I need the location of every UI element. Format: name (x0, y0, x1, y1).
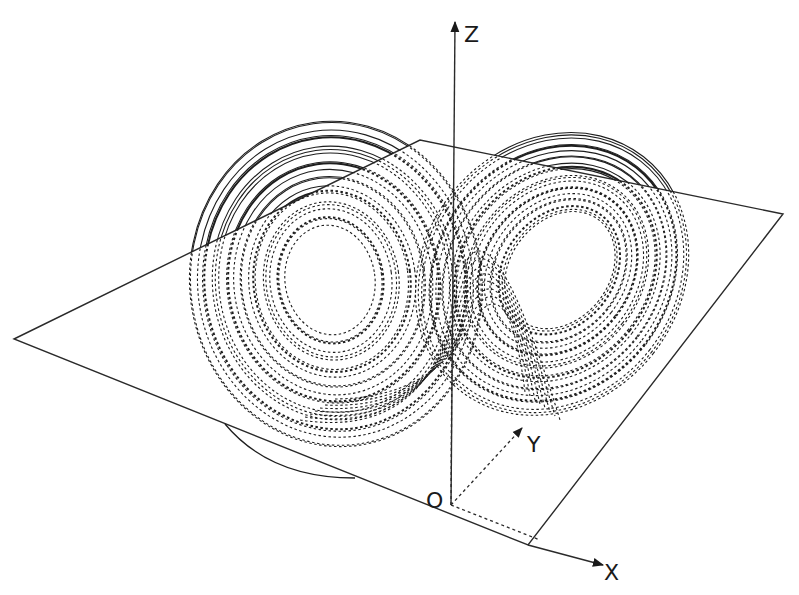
left-wing-orbit (227, 164, 439, 399)
x-axis (528, 545, 603, 565)
left-wing-orbit (242, 180, 423, 382)
right-wing-orbit (387, 103, 720, 443)
right-wing-orbit (397, 112, 712, 433)
x-guide-line (451, 505, 540, 540)
right-wing-orbit (415, 129, 696, 416)
left-wing-orbit (256, 196, 406, 365)
left-wing-orbit (256, 196, 406, 365)
lorenz-attractor-diagram: Z Y X O (0, 0, 799, 595)
left-wing-orbit (228, 166, 437, 398)
left-wing-orbit (195, 130, 475, 435)
y-axis (451, 428, 522, 505)
left-wing-orbit (242, 180, 423, 382)
transition-strand (310, 266, 550, 415)
right-wing-orbit (396, 111, 714, 435)
left-wing-orbit (227, 164, 439, 399)
z-axis-label: Z (464, 22, 479, 47)
right-wing-orbit (415, 129, 696, 416)
transition-strand (320, 281, 540, 408)
y-axis-label: Y (526, 432, 541, 457)
left-wing-orbit (195, 130, 475, 435)
right-wing-orbit (429, 141, 684, 402)
left-wing-orbit (271, 212, 390, 349)
transition-strand (315, 274, 545, 412)
left-wing-orbit (271, 212, 390, 349)
trajectory-below-plane (169, 78, 745, 471)
origin-label: O (426, 488, 443, 513)
left-wing-orbit (228, 166, 437, 398)
right-wing-orbit (434, 146, 679, 397)
x-axis-label: X (604, 560, 619, 585)
right-wing-orbit (482, 190, 638, 351)
